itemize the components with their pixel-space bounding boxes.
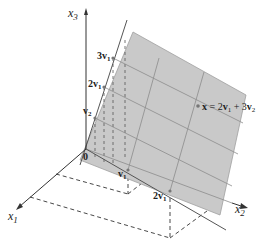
span-plane-diagram: x3 x1 x2 0 v2 2v1 3v1 v1 2v1 x = 2v1 + 3… bbox=[0, 0, 277, 241]
x3-arrowhead-icon bbox=[84, 8, 88, 15]
x3-axis-label: x3 bbox=[67, 6, 78, 22]
origin-label: 0 bbox=[83, 151, 88, 162]
v2-label: v2 bbox=[83, 105, 92, 118]
two-v2-label: 2v1 bbox=[88, 78, 102, 91]
x2-axis-label: x2 bbox=[234, 202, 245, 218]
x1-axis bbox=[19, 149, 86, 207]
three-v2-label: 3v1 bbox=[97, 50, 111, 63]
x1-axis-label: x1 bbox=[7, 209, 18, 225]
